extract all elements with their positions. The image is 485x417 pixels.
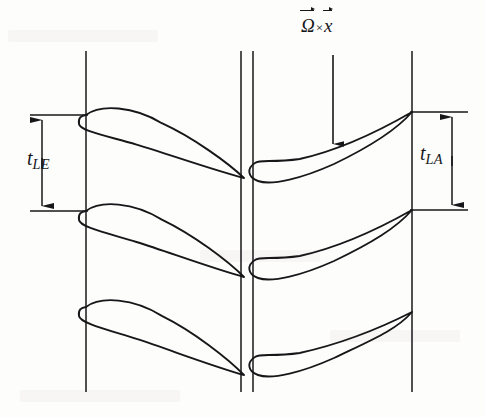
cascade-drawing xyxy=(0,0,485,417)
right-blade-row xyxy=(249,112,412,376)
station-lines xyxy=(86,51,412,392)
left-pitch-dimension xyxy=(30,115,88,211)
left-blade-1 xyxy=(79,108,244,178)
right-blade-1 xyxy=(249,112,412,182)
cascade-diagram-figure: Ω×x tLE tLA xyxy=(0,0,485,417)
left-blade-3 xyxy=(79,300,244,375)
right-blade-2 xyxy=(249,210,412,279)
left-blade-2 xyxy=(79,204,244,277)
right-blade-3 xyxy=(249,312,412,376)
right-pitch-dimension xyxy=(410,112,468,210)
left-blade-row xyxy=(79,108,244,375)
